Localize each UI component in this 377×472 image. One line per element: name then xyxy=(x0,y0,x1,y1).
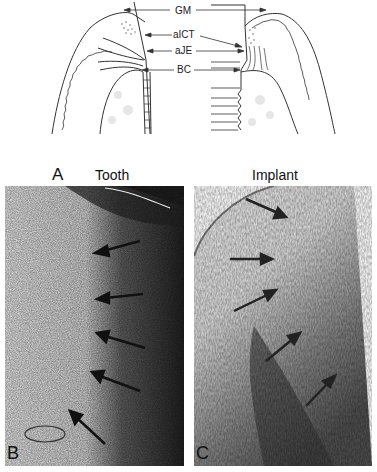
panel-title-tooth: Tooth xyxy=(95,167,129,183)
panel-letter-b: B xyxy=(7,444,19,462)
panel-letter-a: A xyxy=(52,166,63,184)
label-aict: aICT xyxy=(172,29,196,40)
label-gm: GM xyxy=(174,5,192,16)
micrograph-tooth: B xyxy=(5,186,184,466)
panel-letter-c: C xyxy=(196,444,209,462)
schematic-diagram: GM aICT aJE BC xyxy=(0,0,377,140)
label-bc: BC xyxy=(176,64,192,75)
micrograph-implant: C xyxy=(194,186,372,466)
label-aje: aJE xyxy=(174,45,193,56)
panel-title-implant: Implant xyxy=(252,167,298,183)
